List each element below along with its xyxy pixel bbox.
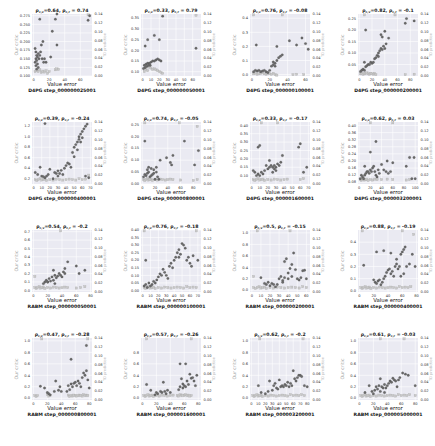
td-point bbox=[294, 286, 296, 288]
scatter-plot-svg: 02040600.00.10.20.30.40.000.020.040.060.… bbox=[218, 4, 326, 114]
y2-tick-label: 0.06 bbox=[421, 372, 430, 376]
x-axis-label: Value error bbox=[156, 189, 186, 195]
y2-tick-label: 0.08 bbox=[312, 255, 321, 259]
critic-point bbox=[52, 178, 54, 180]
critic-point bbox=[188, 373, 190, 375]
critic-point bbox=[379, 390, 381, 392]
td-point bbox=[409, 178, 411, 180]
y2-tick-label: 0.02 bbox=[203, 65, 211, 69]
y-tick-label: 0.3 bbox=[24, 263, 30, 267]
panel-title: ρc,v=0.47, ρc,r = -0.28 bbox=[35, 332, 90, 338]
critic-point bbox=[187, 256, 189, 258]
critic-point bbox=[274, 169, 276, 171]
critic-point bbox=[157, 276, 159, 278]
step-label: D4PG step_000000050001 bbox=[137, 88, 205, 94]
x-tick-label: 80 bbox=[415, 294, 420, 298]
panel-title: ρc,v=0.61, ρc,r = -0.03 bbox=[361, 332, 416, 338]
td-point bbox=[158, 395, 160, 397]
critic-point bbox=[369, 151, 371, 153]
y-tick-label: 0.4 bbox=[133, 374, 139, 378]
x-tick-label: 0 bbox=[359, 294, 362, 298]
td-point bbox=[289, 394, 291, 396]
step-label: D4PG step_000000100001 bbox=[246, 88, 314, 94]
critic-point bbox=[86, 123, 88, 125]
critic-point bbox=[391, 381, 393, 383]
critic-point bbox=[41, 58, 43, 60]
critic-point bbox=[42, 40, 44, 42]
td-point bbox=[389, 394, 391, 396]
critic-point bbox=[147, 171, 149, 173]
y-axis-label: Our critic bbox=[340, 250, 345, 272]
y-tick-label: 0.0 bbox=[133, 396, 139, 400]
td-point bbox=[61, 286, 63, 288]
y2-axis-label: TD prediction bbox=[212, 357, 216, 382]
critic-point bbox=[292, 370, 294, 372]
scatter-panel: 0204060800.000.050.100.150.200.250.000.0… bbox=[109, 112, 217, 222]
critic-point bbox=[75, 265, 77, 267]
step-label: RABM step_000000800001 bbox=[28, 412, 97, 418]
y2-tick-label: 0.10 bbox=[203, 30, 212, 34]
y2-tick-label: 0.12 bbox=[95, 237, 103, 241]
critic-point bbox=[300, 375, 302, 377]
y2-tick-label: 0.02 bbox=[95, 65, 103, 69]
critic-point bbox=[408, 263, 410, 265]
critic-point bbox=[144, 283, 146, 285]
critic-point bbox=[184, 386, 186, 388]
critic-point bbox=[290, 384, 292, 386]
critic-point bbox=[146, 168, 148, 170]
critic-point bbox=[165, 392, 167, 394]
y2-tick-label: 0.10 bbox=[421, 354, 430, 358]
critic-point bbox=[266, 281, 268, 283]
y2-tick-label: 0.12 bbox=[421, 129, 429, 133]
y-tick-label: 0.8 bbox=[351, 351, 357, 355]
y2-tick-label: 0.00 bbox=[203, 398, 212, 402]
critic-point bbox=[373, 165, 375, 167]
critic-point bbox=[173, 259, 175, 261]
x-tick-label: 80 bbox=[191, 186, 196, 190]
critic-point bbox=[275, 45, 277, 47]
td-point bbox=[173, 286, 175, 288]
td-point bbox=[143, 230, 145, 232]
scatter-panel: 0204060800.00.20.40.60.81.00.000.020.040… bbox=[326, 328, 434, 438]
critic-point bbox=[77, 380, 79, 382]
scatter-panel: 0102030405060700.100.150.200.250.300.350… bbox=[218, 112, 326, 222]
y-tick-label: 0.4 bbox=[24, 374, 30, 378]
critic-point bbox=[272, 283, 274, 285]
y2-tick-label: 0.00 bbox=[312, 398, 321, 402]
y2-tick-label: 0.04 bbox=[421, 272, 430, 276]
critic-point bbox=[177, 248, 179, 250]
y2-tick-label: 0.04 bbox=[312, 380, 321, 384]
critic-point bbox=[157, 178, 159, 180]
critic-point bbox=[35, 51, 37, 53]
y2-tick-label: 0.02 bbox=[312, 281, 320, 285]
critic-point bbox=[52, 279, 54, 281]
critic-point bbox=[197, 149, 199, 151]
critic-point bbox=[35, 68, 37, 70]
critic-point bbox=[85, 344, 87, 346]
critic-point bbox=[377, 169, 379, 171]
critic-point bbox=[179, 253, 181, 255]
critic-point bbox=[55, 380, 57, 382]
critic-point bbox=[88, 15, 90, 17]
scatter-plot-svg: 0102030405060700.000.050.100.150.200.250… bbox=[109, 220, 217, 330]
critic-point bbox=[34, 171, 36, 173]
critic-point bbox=[288, 267, 290, 269]
y-tick-label: 1.0 bbox=[351, 339, 357, 343]
td-point bbox=[45, 70, 47, 72]
y-tick-label: 0.6 bbox=[24, 362, 30, 366]
critic-point bbox=[39, 51, 41, 53]
critic-point bbox=[390, 170, 392, 172]
x-tick-label: 0 bbox=[358, 78, 361, 82]
scatter-plot-svg: 02040600.1000.1250.1500.1750.2000.2250.2… bbox=[0, 4, 108, 114]
td-point bbox=[269, 179, 271, 181]
panel-title: ρc,v=0.57, ρc,r = -0.26 bbox=[143, 332, 198, 338]
y2-tick-label: 0.00 bbox=[312, 290, 321, 294]
critic-point bbox=[299, 276, 301, 278]
scatter-panel: 0204060800.00.20.40.60.80.000.020.040.06… bbox=[109, 328, 217, 438]
critic-point bbox=[169, 161, 171, 163]
critic-point bbox=[174, 256, 176, 258]
critic-point bbox=[154, 282, 156, 284]
step-label: D4PG step_000000400001 bbox=[28, 196, 96, 202]
x-tick-label: 60 bbox=[187, 294, 192, 298]
td-point bbox=[48, 70, 50, 72]
